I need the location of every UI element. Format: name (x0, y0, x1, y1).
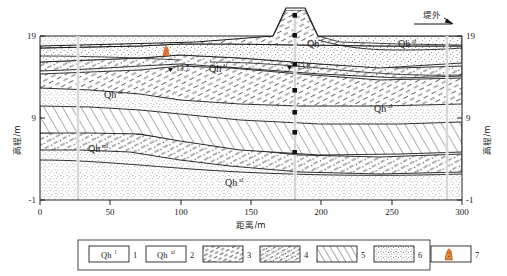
borehole-sample-marker (292, 13, 297, 18)
legend-swatch (203, 246, 243, 262)
direction-note-label: 堤外 (423, 10, 441, 20)
legend-item-2: Qh al 2 (146, 246, 194, 262)
legend-item-6: 6 (374, 246, 422, 262)
direction-note: 堤外 (414, 10, 453, 24)
y-tick-right-19: 19 (466, 31, 476, 41)
x-tick-0: 0 (38, 207, 43, 217)
arrow-right-icon (444, 18, 453, 24)
legend-number: 6 (418, 250, 422, 260)
x-axis-label: 距离/m (236, 220, 265, 230)
strata-stack (40, 8, 462, 200)
plot-area: 13.7 13.8 Qh al Qh al Qh l Qh al (12, 8, 492, 230)
borehole-sample-marker (292, 88, 297, 93)
legend-number: 4 (304, 250, 309, 260)
legend-number: 1 (133, 250, 137, 260)
stratum-label-sup: al (118, 89, 123, 95)
legend-number: 3 (247, 250, 251, 260)
legend-swatch-base: Qh (101, 250, 112, 260)
x-tick-200: 200 (314, 207, 328, 217)
x-tick-250: 250 (385, 207, 399, 217)
borehole-sample-marker (292, 33, 297, 38)
y-tick-right-m1: -1 (466, 195, 474, 205)
legend-item-1: Qh l 1 (89, 246, 137, 262)
x-tick-50: 50 (106, 207, 116, 217)
legend-swatch (317, 246, 357, 262)
water-level-center-label: 13.8 (297, 62, 310, 71)
cross-section-svg: 13.7 13.8 Qh al Qh al Qh l Qh al (0, 0, 507, 276)
legend-item-5: 5 (317, 246, 365, 262)
x-tick-100: 100 (174, 207, 188, 217)
x-ticks (40, 200, 462, 205)
x-tick-150: 150 (244, 207, 258, 217)
stratum-label-base: Qh (104, 89, 116, 100)
legend-number: 5 (361, 250, 365, 260)
borehole-sample-marker (292, 150, 297, 155)
stratum-label-base: Qh (225, 177, 237, 188)
legend-swatch-base: Qh (157, 250, 168, 260)
legend-swatch (374, 246, 414, 262)
figure-root: 13.7 13.8 Qh al Qh al Qh l Qh al (0, 0, 507, 276)
legend-swatch-sup: al (171, 249, 175, 255)
stratum-label-sup: al (412, 38, 417, 44)
legend-item-4: 4 (260, 246, 309, 262)
x-tick-300: 300 (455, 207, 469, 217)
stratum-label-sup: ml (102, 143, 109, 149)
stratum-label-base: Qh (307, 38, 319, 49)
legend-item-3: 3 (203, 246, 251, 262)
stratum-label-sup: al (239, 177, 244, 183)
stratum-label-base: Qh (398, 38, 410, 49)
legend-number: 7 (475, 250, 479, 260)
y-tick-left-m1: -1 (29, 195, 37, 205)
water-level-left-label: 13.7 (176, 64, 189, 73)
y-tick-right-9: 9 (466, 113, 471, 123)
stratum-label-sup: al (223, 63, 228, 69)
y-axis-label-right: 高程/m (482, 125, 492, 154)
y-axis-label-left: 高程/m (12, 125, 22, 154)
y-tick-left-9: 9 (32, 113, 37, 123)
legend-number: 2 (190, 250, 194, 260)
borehole-sample-marker (292, 130, 297, 135)
borehole-sample-marker (292, 110, 297, 115)
stratum-label-base: Qh (88, 143, 100, 154)
legend: Qh l 1 Qh al 2 3 4 5 6 (78, 240, 479, 270)
stratum-label-base: Qh (374, 103, 386, 114)
legend-item-7: 7 (431, 246, 479, 262)
legend-swatch (260, 246, 300, 262)
ground-surface-outline (40, 8, 462, 36)
stratum-label-base: Qh (209, 63, 221, 74)
stratum-label-sup: al (388, 103, 393, 109)
y-tick-left-19: 19 (27, 31, 37, 41)
